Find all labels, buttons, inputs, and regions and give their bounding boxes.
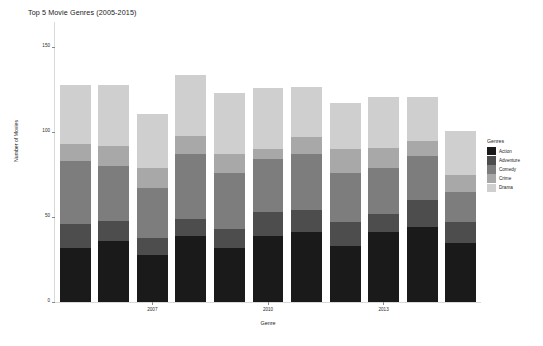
legend-item[interactable]: Drama — [487, 183, 539, 192]
bar-segment[interactable] — [175, 75, 206, 136]
bar-segment[interactable] — [445, 222, 476, 242]
bar-segment[interactable] — [368, 232, 399, 302]
legend: Genres ActionAdventureComedyCrimeDrama — [487, 138, 539, 192]
bar-segment[interactable] — [98, 85, 129, 146]
legend-items: ActionAdventureComedyCrimeDrama — [487, 147, 539, 193]
legend-swatch — [487, 147, 496, 156]
bar-segment[interactable] — [330, 149, 361, 173]
bar-stack[interactable] — [253, 88, 284, 302]
bar-segment[interactable] — [175, 154, 206, 218]
bar-segment[interactable] — [214, 154, 245, 173]
bar-stack[interactable] — [368, 97, 399, 302]
bar-segment[interactable] — [214, 93, 245, 154]
bar-segment[interactable] — [407, 156, 438, 200]
legend-label: Adventure — [499, 158, 520, 163]
y-tick-label: 50 — [45, 213, 50, 218]
bar-segment[interactable] — [368, 97, 399, 148]
bar-segment[interactable] — [60, 248, 91, 302]
bar-segment[interactable] — [330, 222, 361, 246]
bar-segment[interactable] — [214, 248, 245, 302]
x-tick-mark — [268, 302, 269, 305]
y-tick-mark — [52, 217, 55, 218]
x-axis-title: Genre — [56, 320, 480, 326]
legend-label: Comedy — [499, 167, 516, 172]
bar-stack[interactable] — [330, 103, 361, 302]
bar-segment[interactable] — [137, 238, 168, 255]
bar-stack[interactable] — [214, 93, 245, 302]
bar-segment[interactable] — [330, 103, 361, 149]
bar-segment[interactable] — [291, 232, 322, 302]
bar-segment[interactable] — [60, 161, 91, 224]
bar-segment[interactable] — [291, 87, 322, 138]
bar-segment[interactable] — [214, 229, 245, 248]
legend-title: Genres — [487, 138, 539, 144]
bar-segment[interactable] — [175, 136, 206, 155]
bar-segment[interactable] — [98, 221, 129, 241]
bar-stack[interactable] — [407, 97, 438, 302]
plot-area — [56, 22, 480, 302]
bar-stack[interactable] — [291, 87, 322, 302]
bar-segment[interactable] — [407, 227, 438, 302]
bar-segment[interactable] — [445, 175, 476, 192]
bar-segment[interactable] — [60, 224, 91, 248]
legend-label: Crime — [499, 176, 511, 181]
chart-figure: Top 5 Movie Genres (2005-2015) 050100150… — [0, 0, 543, 346]
bar-segment[interactable] — [137, 188, 168, 237]
bar-segment[interactable] — [445, 192, 476, 223]
x-tick-label: 2013 — [370, 307, 398, 312]
bar-segment[interactable] — [407, 141, 438, 156]
bar-segment[interactable] — [291, 210, 322, 232]
y-tick-label: 150 — [42, 43, 50, 48]
bar-stack[interactable] — [98, 85, 129, 302]
bar-segment[interactable] — [330, 173, 361, 222]
bar-segment[interactable] — [368, 148, 399, 168]
bar-segment[interactable] — [253, 88, 284, 149]
bar-stack[interactable] — [60, 85, 91, 302]
legend-item[interactable]: Action — [487, 147, 539, 156]
bar-segment[interactable] — [445, 243, 476, 302]
bar-segment[interactable] — [60, 85, 91, 144]
bar-stack[interactable] — [137, 114, 168, 302]
bar-segment[interactable] — [407, 200, 438, 227]
bar-segment[interactable] — [330, 246, 361, 302]
bar-segment[interactable] — [60, 144, 91, 161]
y-tick-mark — [52, 132, 55, 133]
bar-segment[interactable] — [291, 154, 322, 210]
bar-stack[interactable] — [175, 75, 206, 302]
y-axis-line — [54, 22, 55, 302]
x-tick-mark — [383, 302, 384, 305]
bar-segment[interactable] — [253, 159, 284, 212]
y-tick-label: 100 — [42, 128, 50, 133]
bar-segment[interactable] — [445, 131, 476, 175]
legend-swatch — [487, 184, 496, 193]
bar-segment[interactable] — [137, 114, 168, 168]
bar-segment[interactable] — [253, 236, 284, 302]
bar-segment[interactable] — [368, 214, 399, 233]
bar-stack[interactable] — [445, 131, 476, 302]
bar-segment[interactable] — [407, 97, 438, 141]
y-axis-title: Number of Movies — [13, 120, 19, 162]
chart-title: Top 5 Movie Genres (2005-2015) — [28, 8, 136, 17]
bar-segment[interactable] — [291, 137, 322, 154]
legend-item[interactable]: Comedy — [487, 165, 539, 174]
bar-segment[interactable] — [253, 149, 284, 159]
bar-segment[interactable] — [368, 168, 399, 214]
legend-label: Action — [499, 149, 512, 154]
bar-segment[interactable] — [253, 212, 284, 236]
bar-segment[interactable] — [98, 166, 129, 220]
bar-segment[interactable] — [214, 173, 245, 229]
bar-segment[interactable] — [175, 236, 206, 302]
bar-segment[interactable] — [98, 241, 129, 302]
legend-swatch — [487, 174, 496, 183]
x-tick-label: 2007 — [138, 307, 166, 312]
legend-item[interactable]: Crime — [487, 174, 539, 183]
stacked-bars — [56, 22, 480, 302]
legend-label: Drama — [499, 185, 513, 190]
bar-segment[interactable] — [137, 255, 168, 303]
x-tick-mark — [152, 302, 153, 305]
bar-segment[interactable] — [98, 146, 129, 166]
legend-item[interactable]: Adventure — [487, 156, 539, 165]
bar-segment[interactable] — [175, 219, 206, 236]
legend-swatch — [487, 156, 496, 165]
bar-segment[interactable] — [137, 168, 168, 188]
